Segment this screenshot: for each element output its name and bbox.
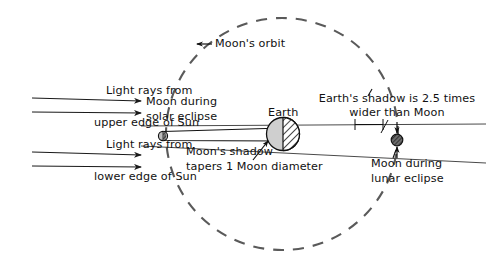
light-rays-upper-group xyxy=(32,98,141,113)
light-ray-upper-2 xyxy=(32,112,141,113)
label-moon-lunar-eclipse-line1: Moon during xyxy=(371,157,442,171)
label-light-rays-lower-line1: Light rays from xyxy=(106,138,192,152)
label-earth-shadow-line2: wider than Moon xyxy=(317,106,477,120)
eclipse-diagram: Light rays from upper edge of Sun Light … xyxy=(0,0,486,264)
label-light-rays-lower-line2: lower edge of Sun xyxy=(94,170,197,184)
moon-lunar-eclipse xyxy=(391,134,403,146)
light-ray-lower-2 xyxy=(32,166,141,167)
label-moon-solar-eclipse-line1: Moon during xyxy=(146,95,217,109)
label-moon-shadow-line2: tapers 1 Moon diameter xyxy=(186,160,323,174)
label-moons-orbit: Moon's orbit xyxy=(215,37,285,51)
label-moon-solar-eclipse-line2: solar eclipse xyxy=(146,110,217,124)
label-moon-shadow-line1: Moon's shadow xyxy=(186,145,273,159)
label-earth-shadow-line1: Earth's shadow is 2.5 times xyxy=(317,92,477,106)
label-moon-lunar-eclipse-line2: lunar eclipse xyxy=(371,172,444,186)
light-rays-lower-group xyxy=(32,152,141,167)
label-earth: Earth xyxy=(268,106,299,120)
light-ray-upper-1 xyxy=(32,98,141,101)
light-ray-lower-1 xyxy=(32,152,141,155)
